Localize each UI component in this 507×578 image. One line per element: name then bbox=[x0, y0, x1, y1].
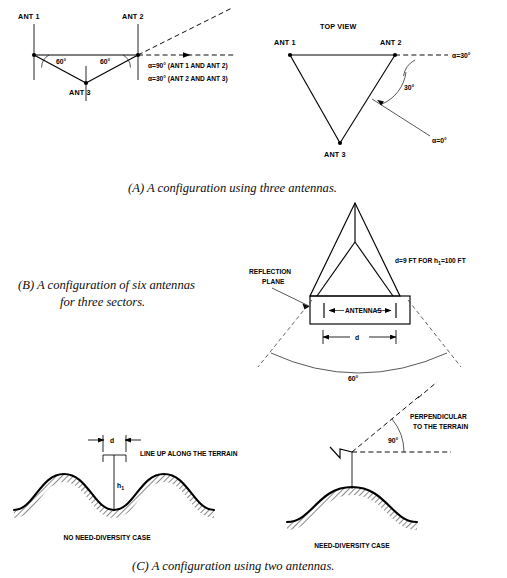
topview-ant3-ant2-edge bbox=[340, 55, 395, 143]
line-up-note: LINE UP ALONG THE TERRAIN bbox=[140, 450, 238, 457]
caption-b-line1: (B) A configuration of six antennas bbox=[18, 278, 195, 292]
ant3-node-dot bbox=[84, 81, 88, 85]
no-need-diversity-case-label: NO NEED-DIVERSITY CASE bbox=[63, 534, 151, 541]
h1-label-subscript: 1 bbox=[121, 485, 124, 491]
panel-b-sector-diagram: ANTENNAS REFLECTION PLANE d 60° d=9 FT F… bbox=[249, 203, 466, 382]
slope-reference-right bbox=[352, 394, 422, 452]
ant3-label: ANT 3 bbox=[69, 88, 91, 97]
topview-ant1-label: ANT 1 bbox=[274, 38, 296, 47]
angle-label-left-60: 60° bbox=[56, 58, 67, 65]
topview-alpha30-label: α=30° bbox=[452, 52, 471, 59]
topview-alpha0-sweep-arc bbox=[382, 72, 406, 104]
sector-angle-arc-60 bbox=[271, 353, 447, 373]
topview-ant1-node-dot bbox=[288, 53, 292, 57]
reflection-plane-label-line1: REFLECTION bbox=[249, 268, 291, 275]
d-label-panel-c: d bbox=[110, 437, 114, 444]
caption-a: (A) A configuration using three antennas… bbox=[128, 181, 337, 195]
reflection-plane-leader bbox=[272, 288, 309, 306]
ant3-ant2-leg bbox=[86, 55, 138, 83]
slope-reference-right-ext bbox=[418, 382, 437, 398]
d-height-note: d=9 FT FOR h1=100 FT bbox=[395, 257, 466, 266]
topview-ant1-ant3-edge bbox=[290, 55, 340, 143]
ant1-node-dot bbox=[32, 53, 36, 57]
panel-c-right: 90° PERPENDICULAR TO THE TERRAIN NEED-DI… bbox=[287, 382, 468, 549]
sector-ray-left bbox=[258, 300, 312, 367]
antenna-configuration-figure: ANT 1 ANT 2 ANT 3 60° 60° α=90° (ANT 1 A… bbox=[0, 0, 507, 578]
angle-arc-90 bbox=[392, 419, 404, 452]
perpendicular-note-line2: TO THE TERRAIN bbox=[413, 423, 468, 430]
topview-ant2-label: ANT 2 bbox=[380, 38, 402, 47]
boresight-arrowhead bbox=[183, 52, 191, 58]
panel-a-side-view: ANT 1 ANT 2 ANT 3 60° 60° α=90° (ANT 1 A… bbox=[18, 8, 236, 101]
d-height-note-suffix: =100 FT bbox=[441, 257, 466, 264]
h1-label-panel-c: h1 bbox=[117, 482, 124, 491]
alpha-note-2: α=30° (ANT 2 AND ANT 3) bbox=[148, 75, 228, 83]
angle-label-right-60: 60° bbox=[100, 58, 111, 65]
ant1-label: ANT 1 bbox=[18, 12, 40, 21]
topview-angle-arc-30 bbox=[404, 60, 416, 76]
caption-c: (C) A configuration using two antennas. bbox=[132, 559, 334, 573]
topview-alpha0-label: α=0° bbox=[432, 137, 447, 144]
perpendicular-note-line1: PERPENDICULAR bbox=[410, 413, 467, 420]
caption-b-line2: for three sectors. bbox=[60, 295, 145, 309]
alpha-note-1: α=90° (ANT 1 AND ANT 2) bbox=[148, 62, 228, 70]
ant2-label: ANT 2 bbox=[122, 12, 144, 21]
sector-angle-label-60: 60° bbox=[348, 375, 359, 382]
antennas-label: ANTENNAS bbox=[345, 307, 382, 314]
figure-root: ANT 1 ANT 2 ANT 3 60° 60° α=90° (ANT 1 A… bbox=[0, 0, 507, 578]
panel-a-top-view: TOP VIEW ANT 1 ANT 2 ANT 3 α=30° 30° α=0… bbox=[274, 22, 471, 159]
need-diversity-case-label: NEED-DIVERSITY CASE bbox=[314, 542, 390, 549]
panel-c-left: d h1 LINE UP ALONG THE TERRAIN NO NEED-D… bbox=[14, 435, 238, 541]
terrain-hatch-right bbox=[287, 487, 417, 530]
reflection-plane-label-line2: PLANE bbox=[262, 278, 285, 285]
antenna-arm-right bbox=[330, 447, 352, 458]
top-view-title: TOP VIEW bbox=[320, 22, 356, 31]
angle-label-90: 90° bbox=[388, 437, 399, 444]
sector-ray-right bbox=[408, 300, 461, 367]
d-height-note-prefix: d=9 FT FOR h bbox=[395, 257, 438, 264]
topview-ant3-label: ANT 3 bbox=[324, 150, 346, 159]
boresight-ray-upper bbox=[138, 8, 232, 55]
topview-ant3-node-dot bbox=[338, 141, 342, 145]
d-label-panel-b: d bbox=[355, 334, 359, 341]
topview-angle-label-30: 30° bbox=[404, 84, 415, 91]
